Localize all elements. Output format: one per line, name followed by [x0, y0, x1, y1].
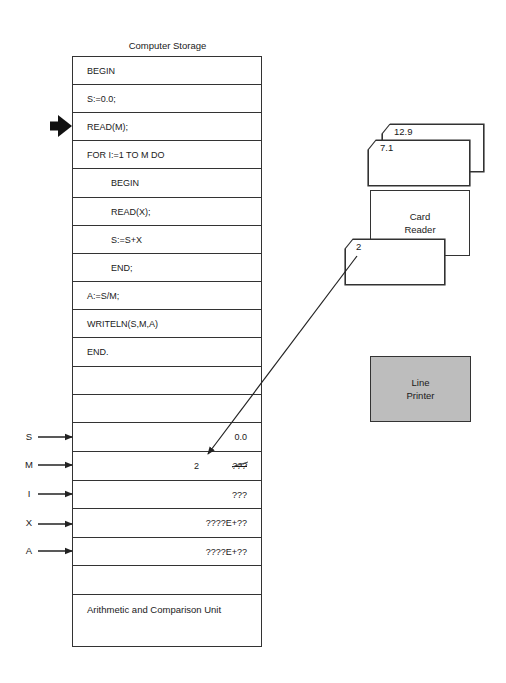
variable-cell-x: ????E+??: [73, 509, 261, 538]
program-row: READ(X);: [73, 198, 261, 226]
program-row: S:=S+X: [73, 226, 261, 254]
program-row: FOR I:=1 TO M DO: [73, 141, 261, 169]
program-line: READ(M);: [87, 122, 128, 132]
variable-value: 0.0: [234, 432, 247, 442]
program-line: FOR I:=1 TO M DO: [87, 150, 164, 160]
alu-label: Arithmetic and Comparison Unit: [87, 604, 221, 615]
card-value: 12.9: [394, 126, 413, 137]
current-instruction-arrow-icon: [50, 115, 72, 137]
variable-cell-a: ????E+??: [73, 538, 261, 566]
program-row: S:=0.0;: [73, 85, 261, 113]
program-row: BEGIN: [73, 169, 261, 198]
variable-value: ???: [232, 490, 247, 500]
variable-value: ????E+??: [206, 518, 247, 528]
line-printer-label: Line Printer: [371, 376, 470, 402]
variable-value: ????E+??: [206, 547, 247, 557]
program-line: S:=0.0;: [87, 94, 116, 104]
line-printer-label-line1: Line: [371, 376, 470, 389]
program-line: READ(X);: [111, 207, 151, 217]
variable-cell-m: 2 ???: [73, 452, 261, 481]
variable-label-x: X: [22, 517, 36, 528]
program-line: BEGIN: [111, 178, 139, 188]
variable-label-s: S: [22, 431, 36, 442]
program-row: END.: [73, 338, 261, 367]
line-printer: Line Printer: [370, 356, 471, 422]
input-card: 7.1: [368, 140, 470, 186]
variable-pointer-arrows: [38, 437, 72, 551]
program-row: WRITELN(S,M,A): [73, 310, 261, 338]
card-value: 2: [356, 241, 361, 252]
empty-row: [73, 367, 261, 395]
variable-label-i: I: [22, 488, 36, 499]
card-reader-label: Card Reader: [371, 210, 469, 236]
empty-row: [73, 566, 261, 595]
line-printer-label-line2: Printer: [371, 389, 470, 402]
variable-new-value: 2: [194, 461, 199, 471]
program-row: END;: [73, 254, 261, 282]
program-line: END.: [87, 347, 109, 357]
read-card: 2: [345, 239, 445, 285]
card-reader-label-line1: Card: [371, 210, 469, 223]
program-line: A:=S/M;: [87, 291, 119, 301]
program-line: END;: [111, 263, 133, 273]
variable-cell-s: 0.0: [73, 423, 261, 452]
empty-row: [73, 395, 261, 423]
program-row: A:=S/M;: [73, 282, 261, 310]
program-line: WRITELN(S,M,A): [87, 319, 158, 329]
card-value: 7.1: [380, 142, 393, 153]
program-line: S:=S+X: [111, 235, 142, 245]
computer-storage: BEGIN S:=0.0; READ(M); FOR I:=1 TO M DO …: [72, 56, 262, 647]
program-row-current: READ(M);: [73, 113, 261, 141]
variable-label-a: A: [22, 545, 36, 556]
variable-label-m: M: [22, 459, 36, 470]
card-reader-label-line2: Reader: [371, 223, 469, 236]
program-row: BEGIN: [73, 57, 261, 85]
variable-old-value: ???: [232, 461, 247, 471]
variable-cell-i: ???: [73, 481, 261, 509]
program-line: BEGIN: [87, 66, 115, 76]
arithmetic-comparison-unit: Arithmetic and Comparison Unit: [73, 595, 261, 647]
computer-storage-title: Computer Storage: [72, 40, 263, 51]
